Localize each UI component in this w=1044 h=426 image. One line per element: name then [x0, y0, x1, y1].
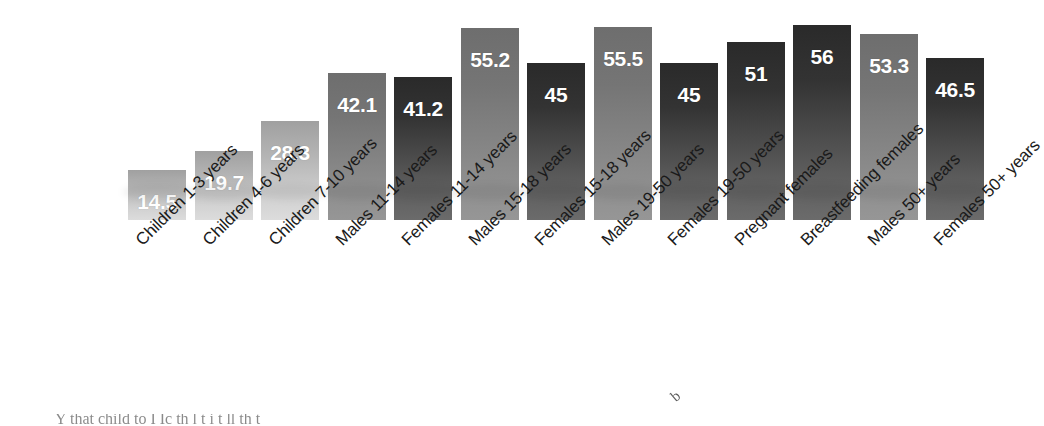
clipped-footer-line: Y that child to I Ic th l t i t ll th t [0, 414, 1033, 426]
bar-value-label: 46.5 [926, 79, 984, 100]
bar-value-label: 42.1 [328, 94, 386, 115]
bar-value-label: 55.2 [461, 49, 519, 70]
bar-group: 14.5 [128, 0, 186, 220]
bar-value-label: 51 [727, 63, 785, 84]
category-axis-labels: Children 1-3 yearsChildren 4-6 yearsChil… [0, 222, 1033, 392]
bar-value-label: 53.3 [860, 55, 918, 76]
bar-value-label: 45 [527, 84, 585, 105]
bar-value-label: 55.5 [594, 48, 652, 69]
bar-value-label: 41.2 [394, 98, 452, 119]
footer-text: Y that child to I Ic th l t i t ll th t [55, 414, 260, 426]
bar-value-label: 45 [660, 84, 718, 105]
bar-value-label: 56 [793, 46, 851, 67]
